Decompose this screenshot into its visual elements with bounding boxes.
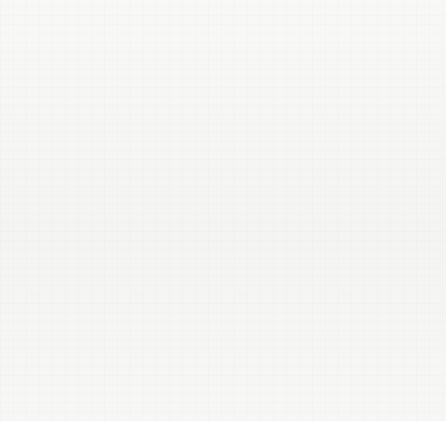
schizophrenia-risk-bar-chart: Verwanten in de tweede graad Verwanten i… (0, 0, 446, 421)
x-tick-label: 30 (297, 371, 307, 381)
bar-row: Kinderen van ooms en tantes (derde graad… (0, 84, 446, 112)
bar-row: Halfbroers en –zusters6% (0, 196, 446, 224)
bar-value-label: 2% (190, 65, 202, 75)
category-label: Halfbroers en –zusters (6, 205, 174, 215)
category-label: Kinderen van ooms en tantes (derde graad… (6, 88, 174, 109)
category-label: Broers of zusters met één ouder met schi… (6, 284, 174, 305)
bar-row: Kind van twee ouders met schizofrenie46% (0, 336, 446, 364)
bar-row: Kind van één ouder met schizofrenie13% (0, 252, 446, 280)
category-label: Kinderen van broers en zusters (6, 144, 174, 165)
bar-row: Broers en zusters9% (0, 224, 446, 252)
bar (176, 201, 201, 219)
category-label: Twee-eiige tweelingen (6, 317, 174, 327)
category-label: Kind van twee ouders met schizofrenie (6, 340, 174, 361)
category-label: Kind van één ouder met schizofrenie (6, 256, 174, 277)
bar-row: Kinderen van broers en zusters4% (0, 140, 446, 168)
bar (176, 313, 247, 331)
bar-value-label: 13% (236, 261, 253, 271)
bar-value-label: 4% (199, 149, 211, 159)
bar (176, 33, 180, 51)
category-label: Kleinkinderen (6, 177, 174, 187)
bar (176, 285, 247, 303)
bar-value-label: 2% (190, 93, 202, 103)
bar-value-label: 2% (190, 121, 202, 131)
bar-row: Ooms en tantes2% (0, 112, 446, 140)
x-tick-label: 40 (339, 371, 349, 381)
bar (176, 257, 230, 275)
category-label: Partners van patiënten (6, 65, 174, 75)
category-label: Ooms en tantes (6, 121, 174, 131)
bar-row: Twee-eiige tweelingen17% (0, 308, 446, 336)
x-tick-label: 0 (173, 371, 178, 381)
category-label: Eeneiige tweelingen (6, 373, 174, 383)
bar (176, 341, 369, 359)
bar-row: Kleinkinderen5% (0, 168, 446, 196)
bar-value-label: 17% (253, 317, 270, 327)
bar (176, 173, 197, 191)
bar-row: Partners van patiënten2% (0, 56, 446, 84)
x-tick-label: 20 (255, 371, 265, 381)
x-axis-title: Kans dat iemand ooit in zijn leven schiz… (0, 387, 446, 397)
bar-value-label: 6% (207, 205, 219, 215)
bar-value-label: 17% (253, 289, 270, 299)
bar-value-label: 1% (186, 37, 198, 47)
bar-value-label: 9% (220, 233, 232, 243)
bar (176, 229, 214, 247)
bar-row: Totale populatie1% (0, 28, 446, 56)
category-label: Totale populatie (6, 37, 174, 47)
category-label: Broers en zusters (6, 233, 174, 243)
bar (176, 145, 193, 163)
bar-value-label: 5% (203, 177, 215, 187)
bar-row: Broers of zusters met één ouder met schi… (0, 280, 446, 308)
x-tick-label: 50 (380, 371, 390, 381)
bar (176, 117, 184, 135)
bar (176, 89, 184, 107)
bar-value-label: 46% (375, 345, 392, 355)
bar (176, 61, 184, 79)
x-tick-label: 10 (213, 371, 223, 381)
x-axis-line (175, 366, 398, 368)
